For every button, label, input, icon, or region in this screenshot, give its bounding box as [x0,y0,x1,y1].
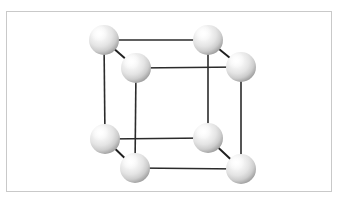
atom-sphere-highlight [120,153,150,183]
simple-cubic-lattice-diagram [0,0,342,203]
atom-sphere-highlight [89,25,119,55]
lattice-atom-group [89,25,256,184]
figure-root [0,0,342,203]
atom-sphere-highlight [226,52,256,82]
lattice-atom-back-bottom-left [90,124,120,154]
lattice-atom-front-top-right [226,52,256,82]
atom-sphere-highlight [193,123,223,153]
atom-sphere-highlight [121,53,151,83]
atom-sphere-highlight [90,124,120,154]
lattice-atom-front-bottom-right [226,154,256,184]
lattice-atom-back-top-left [89,25,119,55]
lattice-atom-back-top-right [193,25,223,55]
atom-sphere-highlight [226,154,256,184]
lattice-edge-front-top [136,67,241,68]
lattice-edge-front-left [135,68,136,168]
lattice-atom-front-bottom-left [120,153,150,183]
atom-sphere-highlight [193,25,223,55]
lattice-edge-back-bottom [105,138,208,139]
lattice-atom-back-bottom-right [193,123,223,153]
lattice-atom-front-top-left [121,53,151,83]
lattice-edge-front-bottom [135,168,241,169]
